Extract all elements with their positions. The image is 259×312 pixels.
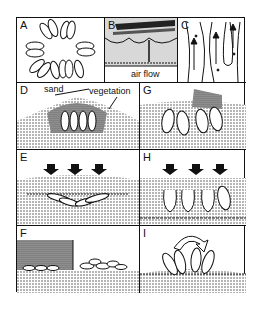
panel-b: B air flow — [105, 18, 177, 82]
panel-g: G — [140, 83, 246, 149]
flow-lines-icon — [178, 18, 246, 82]
buried-eggs-icon — [140, 83, 246, 149]
panel-f: F — [17, 226, 139, 293]
down-arrow-icon — [162, 164, 228, 175]
figure-frame: A — [16, 17, 245, 292]
panel-label-e: E — [20, 151, 27, 163]
collapsed-eggs-icon — [140, 150, 246, 225]
curved-arrow-icon — [174, 236, 208, 252]
stepped-sediment-icon — [17, 226, 139, 293]
egg-ring-icon — [17, 18, 104, 82]
panel-e: E — [17, 150, 139, 225]
panel-label-g: G — [143, 84, 152, 96]
compression-icon — [17, 150, 139, 225]
panel-label-d: D — [20, 84, 28, 96]
vegetation-label: vegetation — [89, 86, 131, 96]
sand-label: sand — [44, 84, 64, 94]
panel-label-b: B — [108, 19, 115, 31]
air-flow-label: air flow — [131, 69, 160, 79]
panel-c: C — [178, 18, 246, 82]
rotation-icon — [140, 226, 246, 293]
down-arrow-icon — [43, 164, 107, 175]
panel-a: A — [17, 18, 104, 82]
panel-i: I — [140, 226, 246, 293]
panel-d: D sand vegetation — [17, 83, 139, 149]
panel-label-i: I — [143, 227, 146, 239]
panel-label-h: H — [143, 151, 151, 163]
panel-label-f: F — [20, 227, 27, 239]
panel-h: H — [140, 150, 246, 225]
